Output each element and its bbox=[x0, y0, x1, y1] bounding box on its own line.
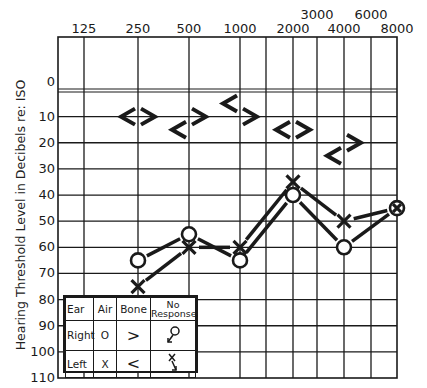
legend-right-air-symbol: O bbox=[94, 321, 117, 351]
left-bone-marker bbox=[327, 148, 341, 164]
left-no-response-icon bbox=[161, 351, 185, 375]
legend: Ear Air Bone NoResponse Right O > Left X… bbox=[63, 295, 198, 373]
legend-left-label: Left bbox=[66, 351, 94, 378]
left-bone-marker bbox=[223, 96, 237, 112]
x-tick-label: 500 bbox=[177, 21, 202, 36]
y-tick-label: 50 bbox=[38, 213, 55, 228]
y-tick-label: 0 bbox=[47, 74, 55, 89]
y-tick-label: 100 bbox=[30, 344, 55, 359]
legend-left-no-response bbox=[151, 351, 196, 378]
y-tick-label: 40 bbox=[38, 187, 55, 202]
legend-header-bone: Bone bbox=[117, 298, 151, 321]
data-markers bbox=[121, 96, 404, 293]
legend-header-response: Response bbox=[151, 308, 197, 319]
y-tick-label: 80 bbox=[38, 292, 55, 307]
legend-header-air: Air bbox=[94, 298, 117, 321]
x-tick-label: 1000 bbox=[223, 21, 256, 36]
y-axis-label: Hearing Threshold Level in Decibels re: … bbox=[13, 80, 28, 351]
right-air-marker bbox=[233, 253, 247, 267]
x-axis-tick-labels: 125250500100020004000800030006000 bbox=[72, 7, 414, 36]
right-no-response-icon bbox=[161, 323, 185, 347]
series-segment bbox=[146, 253, 181, 280]
x-tick-label: 2000 bbox=[276, 21, 309, 36]
x-tick-label: 4000 bbox=[327, 21, 360, 36]
right-air-marker bbox=[182, 227, 196, 241]
y-tick-label: 110 bbox=[30, 370, 55, 385]
legend-left-bone-symbol: < bbox=[117, 351, 151, 378]
right-bone-marker bbox=[296, 122, 310, 138]
right-air-marker bbox=[131, 253, 145, 267]
y-tick-label: 90 bbox=[38, 318, 55, 333]
y-tick-label: 30 bbox=[38, 161, 55, 176]
left-bone-marker bbox=[172, 122, 186, 138]
x-tick-label: 3000 bbox=[300, 7, 333, 22]
legend-header-no-response: NoResponse bbox=[151, 298, 196, 321]
x-tick-label: 6000 bbox=[354, 7, 387, 22]
legend-right-label: Right bbox=[66, 321, 94, 351]
y-tick-label: 10 bbox=[38, 109, 55, 124]
x-tick-label: 8000 bbox=[380, 21, 413, 36]
x-tick-label: 250 bbox=[126, 21, 151, 36]
legend-right-bone-symbol: > bbox=[117, 321, 151, 351]
right-air-marker bbox=[337, 240, 351, 254]
legend-right-no-response bbox=[151, 321, 196, 351]
legend-header-ear: Ear bbox=[66, 298, 94, 321]
left-bone-marker bbox=[276, 122, 290, 138]
x-tick-label: 125 bbox=[72, 21, 97, 36]
y-tick-label: 20 bbox=[38, 135, 55, 150]
y-tick-label: 70 bbox=[38, 265, 55, 280]
legend-left-air-symbol: X bbox=[94, 351, 117, 378]
y-tick-label: 60 bbox=[38, 239, 55, 254]
y-axis-tick-labels: 0102030405060708090100110 bbox=[30, 74, 55, 385]
right-air-marker bbox=[286, 188, 300, 202]
